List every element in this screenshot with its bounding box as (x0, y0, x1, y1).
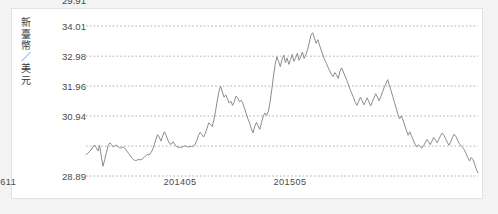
exchange-rate-line (86, 33, 478, 173)
gridlines (86, 26, 478, 176)
chart-page: 新臺幣／美元 34.01 32.98 31.96 30.94 29.91 28.… (0, 0, 498, 214)
line-chart-svg (0, 0, 498, 214)
